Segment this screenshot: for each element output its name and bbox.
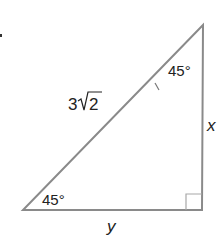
stray-mark <box>0 34 2 37</box>
triangle-outline <box>23 25 203 210</box>
right-angle-marker <box>186 194 202 210</box>
bottom-left-angle-label: 45° <box>42 191 65 208</box>
top-angle-label: 45° <box>168 62 191 79</box>
tick-mark <box>155 83 159 90</box>
hypotenuse-radicand: 2 <box>89 95 98 114</box>
right-triangle-diagram: 3 2 45° 45° x y <box>0 0 220 250</box>
horizontal-leg-label: y <box>106 217 117 236</box>
vertical-leg-label: x <box>206 116 216 135</box>
hypotenuse-label: 3 2 <box>68 92 102 114</box>
hypotenuse-coefficient: 3 <box>68 95 77 114</box>
